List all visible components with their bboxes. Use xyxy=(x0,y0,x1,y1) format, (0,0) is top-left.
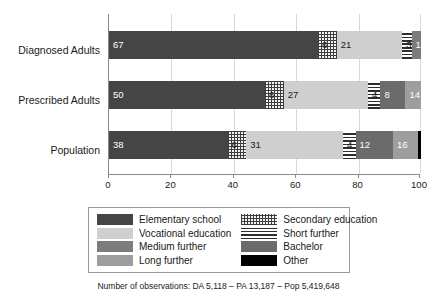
segment-long-further: 14 xyxy=(405,81,421,109)
category-label-population: Population xyxy=(0,144,100,156)
x-tick-0 xyxy=(108,174,109,178)
segment-other xyxy=(418,131,421,159)
x-tick-label-0: 0 xyxy=(105,179,110,190)
x-tick-60 xyxy=(295,174,296,178)
legend-item-other: Other xyxy=(241,254,377,267)
legend-swatch-other xyxy=(241,255,277,266)
segment-value: 4 xyxy=(347,140,352,150)
bar-diagnosed-adults: 67 6 21 3 13 xyxy=(109,31,421,59)
bar-population: 38 6 31 4 12 16 xyxy=(109,131,421,159)
legend-swatch-elementary-school xyxy=(97,214,133,225)
segment-value: 21 xyxy=(341,40,352,50)
legend-item-secondary-education: Secondary education xyxy=(241,213,377,226)
x-tick-label-100: 100 xyxy=(411,179,427,190)
segment-elementary-school: 67 xyxy=(109,31,318,59)
segment-short-further: 3 xyxy=(402,31,411,59)
segment-value: 6 xyxy=(322,40,327,50)
category-label-prescribed-adults: Prescribed Adults xyxy=(0,94,100,106)
legend-label: Secondary education xyxy=(283,214,377,225)
segment-value: 50 xyxy=(113,90,124,100)
segment-short-further: 4 xyxy=(343,131,356,159)
segment-vocational-education: 27 xyxy=(284,81,368,109)
segment-value: 16 xyxy=(397,140,408,150)
x-tick-label-40: 40 xyxy=(228,179,239,190)
segment-bachelor: 8 xyxy=(380,81,405,109)
segment-long-further: 16 xyxy=(393,131,418,159)
segment-bachelor: 12 xyxy=(356,131,393,159)
segment-value: 8 xyxy=(384,90,389,100)
segment-value: 38 xyxy=(113,140,124,150)
segment-secondary-education: 6 xyxy=(228,131,247,159)
segment-elementary-school: 50 xyxy=(109,81,265,109)
x-tick-label-60: 60 xyxy=(290,179,301,190)
plot-area: 67 6 21 3 13 50 6 27 xyxy=(108,14,420,174)
legend-swatch-short-further xyxy=(241,228,277,239)
legend-column-left: Elementary school Vocational education M… xyxy=(97,213,231,267)
segment-value: 6 xyxy=(269,90,274,100)
legend-item-long-further: Long further xyxy=(97,254,231,267)
category-label-diagnosed-adults: Diagnosed Adults xyxy=(0,44,100,56)
segment-vocational-education: 31 xyxy=(246,131,343,159)
chart-footnote: Number of observations: DA 5,118 – PA 13… xyxy=(0,281,437,291)
segment-value: 6 xyxy=(232,140,237,150)
legend-label: Other xyxy=(283,255,308,266)
segment-value: 31 xyxy=(250,140,261,150)
x-tick-20 xyxy=(170,174,171,178)
segment-medium-further: 13 xyxy=(412,31,421,59)
segment-value: 14 xyxy=(409,90,420,100)
legend-label: Long further xyxy=(139,255,193,266)
segment-value: 27 xyxy=(288,90,299,100)
legend-label: Elementary school xyxy=(139,214,221,225)
x-axis: 0 20 40 60 80 100 xyxy=(108,174,420,175)
segment-elementary-school: 38 xyxy=(109,131,228,159)
segment-value: 13 xyxy=(416,40,421,50)
segment-secondary-education: 6 xyxy=(265,81,284,109)
bar-prescribed-adults: 50 6 27 4 8 14 xyxy=(109,81,421,109)
legend-swatch-long-further xyxy=(97,255,133,266)
legend-item-vocational-education: Vocational education xyxy=(97,227,231,240)
legend-swatch-secondary-education xyxy=(241,214,277,225)
chart-legend: Elementary school Vocational education M… xyxy=(88,207,350,273)
segment-secondary-education: 6 xyxy=(318,31,337,59)
legend-label: Short further xyxy=(283,228,339,239)
legend-label: Bachelor xyxy=(283,241,322,252)
legend-column-right: Secondary education Short further Bachel… xyxy=(241,213,377,267)
segment-vocational-education: 21 xyxy=(337,31,403,59)
legend-label: Vocational education xyxy=(139,228,231,239)
legend-swatch-medium-further xyxy=(97,241,133,252)
x-tick-100 xyxy=(419,174,420,178)
legend-swatch-vocational-education xyxy=(97,228,133,239)
stacked-bar-chart: 67 6 21 3 13 50 6 27 xyxy=(0,0,437,305)
legend-item-bachelor: Bachelor xyxy=(241,240,377,253)
x-tick-label-80: 80 xyxy=(352,179,363,190)
segment-value: 4 xyxy=(372,90,377,100)
legend-item-medium-further: Medium further xyxy=(97,240,231,253)
segment-value: 67 xyxy=(113,40,124,50)
x-tick-40 xyxy=(233,174,234,178)
legend-swatch-bachelor xyxy=(241,241,277,252)
segment-short-further: 4 xyxy=(368,81,381,109)
legend-label: Medium further xyxy=(139,241,206,252)
legend-item-elementary-school: Elementary school xyxy=(97,213,231,226)
legend-item-short-further: Short further xyxy=(241,227,377,240)
x-tick-80 xyxy=(358,174,359,178)
segment-value: 12 xyxy=(360,140,371,150)
x-tick-label-20: 20 xyxy=(165,179,176,190)
